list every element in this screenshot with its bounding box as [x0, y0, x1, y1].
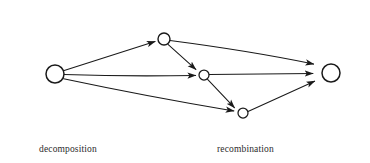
caption-decomposition: decomposition [39, 145, 97, 155]
edge-middle-to-sink [209, 73, 313, 74]
edge-bottom-to-sink [248, 81, 315, 111]
edge-source-to-bottom [64, 79, 234, 111]
edge-source-to-middle [64, 75, 196, 76]
graph-svg [0, 0, 370, 163]
edge-middle-to-bottom [208, 79, 235, 107]
node-middle[interactable] [199, 70, 209, 80]
edges-layer [64, 41, 315, 112]
edge-top-to-middle [168, 44, 196, 69]
diagram-canvas: decomposition recombination [0, 0, 370, 163]
node-source[interactable] [46, 65, 64, 83]
caption-recombination: recombination [217, 145, 274, 155]
node-sink[interactable] [322, 64, 340, 82]
node-bottom[interactable] [238, 108, 248, 118]
node-top[interactable] [158, 33, 170, 45]
edge-top-to-sink [170, 41, 314, 65]
edge-source-to-top [64, 42, 155, 71]
